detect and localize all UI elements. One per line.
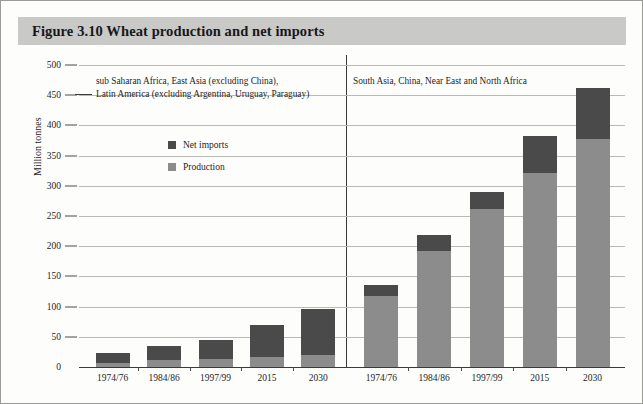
y-tick-mark-150 [65, 276, 77, 277]
legend-item-net-imports: Net imports [168, 137, 228, 153]
bar-segment-production [250, 357, 284, 367]
y-tick-label-400: 400 [27, 120, 61, 130]
bar-segment-net-imports [96, 353, 130, 363]
plot-area: 0501001502002503003504004505001974/76198… [79, 65, 625, 367]
legend-item-production: Production [168, 159, 228, 175]
bar-segment-production [147, 360, 181, 367]
region-note-left-line1: sub Saharan Africa, East Asia (excluding… [96, 75, 309, 88]
bar-segment-net-imports [523, 136, 557, 173]
gridline-0 [79, 367, 625, 368]
bar-segment-net-imports [470, 192, 504, 209]
bar-left-2030 [301, 309, 335, 367]
legend-swatch-production-icon [168, 163, 176, 171]
x-tick-mark [293, 367, 294, 371]
bar-segment-net-imports [250, 325, 284, 357]
y-tick-label-500: 500 [27, 60, 61, 70]
bar-segment-production [470, 209, 504, 367]
x-tick-label-left-1997/99: 1997/99 [187, 373, 245, 383]
y-tick-label-350: 350 [27, 151, 61, 161]
bar-left-1974/76 [96, 353, 130, 367]
bar-segment-net-imports [301, 309, 335, 355]
bar-segment-production [417, 251, 451, 367]
y-tick-label-250: 250 [27, 211, 61, 221]
bar-segment-net-imports [364, 285, 398, 295]
figure-title-banner: Figure 3.10 Wheat production and net imp… [18, 17, 626, 45]
y-tick-mark-400 [65, 125, 77, 126]
bar-right-2015 [523, 136, 557, 367]
y-tick-label-200: 200 [27, 241, 61, 251]
bar-segment-production [96, 363, 130, 367]
x-tick-mark [241, 367, 242, 371]
x-tick-label-right-1984/86: 1984/86 [405, 373, 463, 383]
legend: Net imports Production [168, 137, 228, 181]
y-tick-label-0: 0 [27, 362, 61, 372]
bar-right-1997/99 [470, 192, 504, 367]
legend-swatch-net-imports-icon [168, 141, 176, 149]
bar-segment-net-imports [199, 340, 233, 359]
y-tick-mark-250 [65, 216, 77, 217]
bar-left-1984/86 [147, 346, 181, 367]
bar-segment-production [199, 359, 233, 367]
bar-segment-net-imports [417, 235, 451, 251]
x-tick-mark [461, 367, 462, 371]
y-tick-mark-100 [65, 306, 77, 307]
x-tick-label-left-2015: 2015 [238, 373, 296, 383]
y-tick-mark-500 [65, 65, 77, 66]
gridline-400 [79, 125, 625, 126]
y-tick-label-450: 450 [27, 90, 61, 100]
x-tick-mark [190, 367, 191, 371]
y-tick-mark-300 [65, 185, 77, 186]
y-tick-mark-200 [65, 246, 77, 247]
bar-segment-production [523, 173, 557, 367]
region-note-left-line2: Latin America (excluding Argentina, Urug… [96, 89, 309, 99]
x-tick-label-left-1974/76: 1974/76 [84, 373, 142, 383]
bar-right-2030 [576, 88, 610, 367]
y-tick-label-100: 100 [27, 302, 61, 312]
bar-segment-net-imports [576, 88, 610, 139]
x-tick-mark [566, 367, 567, 371]
y-tick-label-50: 50 [27, 332, 61, 342]
legend-label-net-imports: Net imports [183, 140, 228, 150]
region-note-left: sub Saharan Africa, East Asia (excluding… [96, 75, 309, 101]
y-tick-mark-50 [65, 336, 77, 337]
bar-segment-production [301, 355, 335, 367]
x-tick-label-right-1997/99: 1997/99 [458, 373, 516, 383]
x-tick-label-right-1974/76: 1974/76 [352, 373, 410, 383]
region-note-left-line2-wrap: Latin America (excluding Argentina, Urug… [96, 88, 309, 101]
bar-left-1997/99 [199, 340, 233, 367]
x-tick-label-right-2015: 2015 [511, 373, 569, 383]
panel-divider [346, 55, 347, 367]
gridline-500 [79, 65, 625, 66]
x-tick-label-left-2030: 2030 [289, 373, 347, 383]
bar-right-1984/86 [417, 235, 451, 367]
bar-left-2015 [250, 325, 284, 367]
x-tick-mark [138, 367, 139, 371]
legend-label-production: Production [183, 162, 225, 172]
x-tick-label-right-2030: 2030 [564, 373, 622, 383]
page-title: Figure 3.10 Wheat production and net imp… [32, 23, 324, 40]
figure-container: Figure 3.10 Wheat production and net imp… [0, 0, 643, 404]
y-tick-label-300: 300 [27, 181, 61, 191]
note-rule-icon [75, 94, 92, 95]
bar-segment-production [364, 296, 398, 367]
region-note-right-line1: South Asia, China, Near East and North A… [353, 75, 527, 88]
x-tick-label-left-1984/86: 1984/86 [135, 373, 193, 383]
bar-segment-net-imports [147, 346, 181, 360]
y-tick-mark-350 [65, 155, 77, 156]
bar-segment-production [576, 139, 610, 367]
bar-right-1974/76 [364, 285, 398, 367]
x-tick-mark [408, 367, 409, 371]
region-note-right: South Asia, China, Near East and North A… [353, 75, 527, 88]
x-tick-mark [513, 367, 514, 371]
y-tick-label-150: 150 [27, 271, 61, 281]
